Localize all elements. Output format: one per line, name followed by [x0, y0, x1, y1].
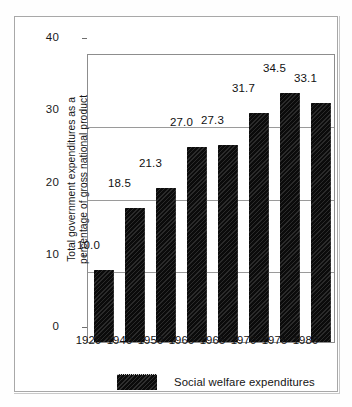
legend: Social welfare expenditures [117, 374, 315, 390]
value-label-1950: 21.3 [133, 158, 169, 169]
y-tick-label-0: 0 [25, 321, 59, 332]
y-axis-title: Total government expenditures as a perce… [66, 54, 91, 304]
bar-1980[interactable] [311, 103, 331, 342]
value-label-1970: 31.7 [226, 83, 262, 94]
value-label-1940: 18.5 [102, 178, 138, 189]
bar-1975[interactable] [280, 93, 300, 342]
x-tick-label-1980: 1980 [287, 335, 325, 346]
y-axis-title-line-2: percentage of gross national product [78, 54, 90, 304]
y-tick-label-40: 40 [25, 32, 59, 43]
bar-1940[interactable] [125, 208, 145, 342]
y-tick-mark-40 [82, 38, 87, 39]
legend-swatch-social-welfare [117, 374, 157, 390]
bar-1970[interactable] [249, 113, 269, 342]
bar-1929[interactable] [94, 270, 114, 342]
bar-1960[interactable] [187, 147, 207, 342]
figure: 010203040 Total government expenditures … [0, 0, 352, 407]
bars-container [88, 55, 334, 342]
y-tick-label-10: 10 [25, 249, 59, 260]
y-tick-label-30: 30 [25, 104, 59, 115]
figure-border: 010203040 Total government expenditures … [14, 16, 338, 392]
value-label-1980: 33.1 [288, 73, 324, 84]
y-tick-label-20: 20 [25, 177, 59, 188]
y-tick-mark-0 [82, 327, 87, 328]
legend-label-social-welfare: Social welfare expenditures [174, 376, 315, 388]
value-label-1929: 10.0 [71, 240, 107, 251]
bar-1965[interactable] [218, 145, 238, 342]
plot-area [87, 54, 335, 343]
bar-1950[interactable] [156, 188, 176, 342]
y-axis-title-line-1: Total government expenditures as a [66, 54, 78, 304]
value-label-1965: 27.3 [195, 115, 231, 126]
